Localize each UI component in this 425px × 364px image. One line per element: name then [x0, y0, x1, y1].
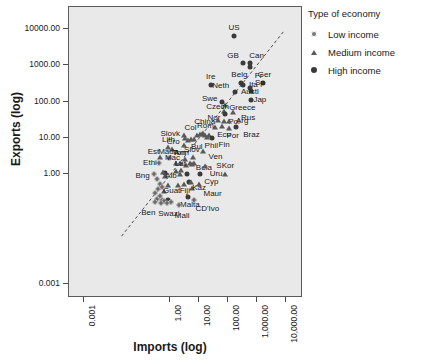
legend-marker-filled-circle — [306, 67, 322, 73]
data-point-high-income — [222, 111, 227, 116]
y-axis-tick-label: 100.00 — [34, 96, 60, 106]
y-axis-tick-label: 10000.00 — [25, 23, 60, 33]
legend-marker-small-dot — [306, 31, 322, 37]
x-axis-tick-mark — [256, 297, 257, 302]
data-point-high-income — [198, 172, 203, 177]
data-point-high-income — [231, 33, 236, 38]
data-point-medium-income — [230, 109, 236, 114]
x-axis-tick-mark — [83, 297, 84, 302]
x-axis-tick-mark — [227, 297, 228, 302]
point-label: Belg — [231, 70, 247, 79]
point-label: Col — [184, 122, 196, 131]
point-label: Fiji — [180, 186, 190, 195]
x-axis-tick-label: 1.00 — [173, 305, 183, 322]
data-point-high-income — [247, 65, 252, 70]
y-axis-tick-label: 10.00 — [39, 132, 60, 142]
point-label: CD'Ivo — [196, 203, 220, 212]
point-label: Est — [148, 147, 160, 156]
y-axis-tick-label: 0.001 — [39, 278, 60, 288]
point-label: Neth — [212, 80, 229, 89]
data-point-medium-income — [219, 124, 225, 129]
point-label: Fin — [219, 140, 230, 149]
y-axis-title: Exports (log) — [9, 59, 23, 199]
data-point-high-income — [185, 171, 190, 176]
data-point-high-income — [232, 89, 237, 94]
chart-root: USGBCanFrGerBelgItaSpJapIreNethAustlSweG… — [0, 0, 425, 364]
legend-label: High income — [328, 65, 381, 76]
point-label: Austl — [241, 86, 259, 95]
data-point-low-income — [151, 172, 156, 177]
point-label: Slov — [184, 144, 200, 153]
legend-entries: Low incomeMedium incomeHigh income — [306, 27, 424, 77]
point-label: Maur — [203, 188, 221, 197]
point-label: Phil — [205, 141, 218, 150]
point-label: Ven — [209, 151, 223, 160]
point-label: SKor — [216, 160, 234, 169]
x-axis-tick-mark — [169, 297, 170, 302]
data-point-medium-income — [181, 133, 187, 138]
data-point-medium-income — [202, 164, 208, 169]
x-axis-tick-label: 1,000.00 — [260, 305, 270, 338]
y-axis-tick-mark — [63, 101, 68, 102]
point-label: Ethi — [143, 158, 157, 167]
point-label: Ecu — [217, 130, 231, 139]
legend-entry[interactable]: Low income — [306, 27, 424, 41]
x-axis-tick-label: 10,000.00 — [289, 305, 299, 343]
data-point-medium-income — [178, 168, 184, 173]
point-label: Can — [249, 50, 264, 59]
point-label: Lith — [162, 135, 175, 144]
data-point-medium-income — [197, 131, 203, 136]
x-axis-tick-label: 0.001 — [87, 305, 97, 326]
point-label: Arg — [236, 116, 248, 125]
data-point-medium-income — [222, 171, 228, 176]
y-axis-tick-mark — [63, 283, 68, 284]
legend-label: Low income — [328, 29, 379, 40]
data-point-high-income — [234, 125, 239, 130]
data-point-low-income — [164, 201, 169, 206]
data-point-high-income — [240, 60, 245, 65]
data-point-medium-income — [226, 119, 232, 124]
point-label: GB — [227, 50, 239, 59]
point-label: Cyp — [204, 177, 218, 186]
legend-title: Type of economy — [308, 8, 424, 19]
legend-entry[interactable]: High income — [306, 63, 424, 77]
point-label: Ire — [206, 71, 215, 80]
point-label: Alb — [165, 171, 177, 180]
point-label: Ben — [141, 208, 155, 217]
x-axis-title: Imports (log) — [0, 340, 340, 354]
point-label: Bng — [135, 171, 149, 180]
y-axis-tick-label: 1000.00 — [29, 59, 60, 69]
plot-area: USGBCanFrGerBelgItaSpJapIreNethAustlSweG… — [68, 6, 302, 297]
y-axis-tick-mark — [63, 64, 68, 65]
data-point-medium-income — [215, 118, 221, 123]
point-label: US — [228, 22, 239, 31]
y-axis-tick-mark — [63, 173, 68, 174]
point-label: Sp — [255, 77, 265, 86]
x-axis-tick-label: 100.00 — [231, 305, 241, 331]
x-axis-tick-mark — [285, 297, 286, 302]
point-label: Rom — [197, 120, 214, 129]
data-point-low-income — [153, 200, 158, 205]
data-point-low-income — [156, 161, 161, 166]
legend-label: Medium income — [328, 47, 395, 58]
x-axis-tick-mark — [198, 297, 199, 302]
point-label: Swazi — [158, 209, 179, 218]
data-point-low-income — [192, 197, 197, 202]
data-point-medium-income — [200, 148, 206, 153]
data-point-medium-income — [204, 135, 210, 140]
point-label: Lat — [175, 159, 186, 168]
plot-layer: USGBCanFrGerBelgItaSpJapIreNethAustlSweG… — [69, 7, 301, 296]
legend-marker-triangle — [306, 50, 322, 55]
data-point-low-income — [158, 200, 163, 205]
legend: Type of economy Low incomeMedium incomeH… — [306, 8, 424, 81]
data-point-medium-income — [196, 181, 202, 186]
point-label: Braz — [243, 130, 259, 139]
legend-entry[interactable]: Medium income — [306, 45, 424, 59]
point-label: Czech — [206, 102, 229, 111]
x-axis-tick-label: 10.00 — [202, 305, 212, 326]
y-axis-tick-label: 1.00 — [43, 168, 60, 178]
data-point-medium-income — [190, 154, 196, 159]
y-axis-tick-mark — [63, 137, 68, 138]
y-axis-tick-mark — [63, 28, 68, 29]
data-point-low-income — [177, 203, 182, 208]
